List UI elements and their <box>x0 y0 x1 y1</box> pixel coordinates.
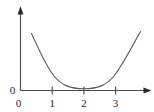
y-axis-origin-label: 0 <box>10 84 16 96</box>
x-tick-label-2: 2 <box>81 97 87 109</box>
x-tick-label-0: 0 <box>16 97 22 109</box>
parabola-figure: 0 0 1 2 3 <box>0 0 154 112</box>
figure-canvas: 0 0 1 2 3 <box>0 0 154 112</box>
x-tick-label-1: 1 <box>49 97 55 109</box>
parabola-curve <box>32 32 141 89</box>
x-tick-label-3: 3 <box>113 97 119 109</box>
x-axis-arrow-icon <box>144 88 152 94</box>
y-axis-arrow-icon <box>18 6 24 15</box>
